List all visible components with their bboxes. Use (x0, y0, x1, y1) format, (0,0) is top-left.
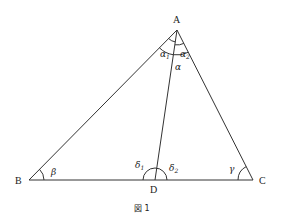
label-delta2: δ2 (169, 163, 178, 174)
arc-alpha1 (169, 39, 176, 42)
arc-alpha2 (175, 43, 184, 45)
label-beta: β (50, 167, 56, 177)
figure-caption: 図 1 (134, 204, 150, 213)
label-gamma: γ (229, 164, 235, 174)
label-c: C (259, 175, 266, 186)
label-d: D (150, 184, 157, 195)
side-ab (29, 30, 177, 180)
label-delta1: δ1 (135, 160, 144, 171)
triangle-diagram: A B C D α1 α2 α β γ δ1 δ2 図 1 (0, 0, 282, 224)
arc-gamma (238, 167, 246, 180)
label-a: A (173, 14, 181, 25)
arc-beta (40, 169, 45, 180)
label-b: B (15, 175, 22, 186)
label-alpha: α (175, 62, 181, 72)
label-alpha1: α1 (160, 49, 170, 60)
label-alpha2: α2 (180, 49, 190, 60)
